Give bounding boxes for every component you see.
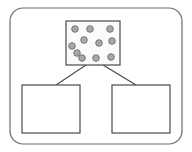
target-node-left[interactable] (22, 85, 80, 133)
diagram-canvas (0, 0, 192, 152)
data-point-dot (107, 26, 114, 33)
diagram-svg (0, 0, 192, 152)
data-point-dot (108, 54, 115, 61)
data-point-dot (96, 40, 103, 47)
data-point-dot (87, 26, 94, 33)
data-point-dot (74, 50, 81, 57)
data-point-dot (69, 43, 76, 50)
data-point-dot (72, 26, 79, 33)
data-point-dot (93, 55, 100, 62)
data-point-dot (109, 38, 116, 45)
data-point-dot (81, 37, 88, 44)
data-point-dot (79, 55, 86, 62)
target-node-right[interactable] (112, 85, 170, 133)
